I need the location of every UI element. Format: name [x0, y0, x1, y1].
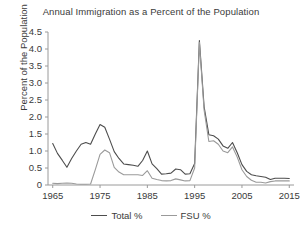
y-tick-label: 0: [37, 179, 42, 190]
legend-line-swatch-total: [91, 215, 107, 216]
series-line-fsu: [53, 42, 290, 184]
legend-label-fsu: FSU %: [181, 210, 211, 221]
x-axis-tick-labels: 196519751985199520052015: [42, 190, 300, 201]
x-tick-label: 1985: [137, 190, 158, 201]
series-line-total: [53, 41, 290, 180]
y-axis-tick-labels: 00.51.01.52.02.53.03.54.04.5: [29, 26, 42, 190]
y-tick-label: 2.5: [29, 94, 42, 105]
legend-label-total: Total %: [111, 210, 142, 221]
x-tick-label: 1965: [42, 190, 63, 201]
y-tick-label: 4.5: [29, 26, 42, 37]
y-tick-label: 0.5: [29, 162, 42, 173]
x-tick-label: 1995: [184, 190, 205, 201]
x-tick-label: 1975: [89, 190, 110, 201]
chart-figure: Annual Immigration as a Percent of the P…: [0, 0, 302, 232]
plot-area: 00.51.01.52.02.53.03.54.04.5 19651975198…: [0, 0, 302, 232]
y-tick-label: 2.0: [29, 111, 42, 122]
chart-legend: Total % FSU %: [0, 210, 302, 221]
y-tick-label: 1.0: [29, 145, 42, 156]
y-tick-label: 3.5: [29, 60, 42, 71]
data-series-group: [53, 41, 290, 185]
x-tick-label: 2015: [279, 190, 300, 201]
legend-entry-fsu[interactable]: FSU %: [161, 210, 211, 221]
legend-entry-total[interactable]: Total %: [91, 210, 142, 221]
y-tick-label: 1.5: [29, 128, 42, 139]
y-tick-label: 3.0: [29, 77, 42, 88]
x-tick-label: 2005: [231, 190, 252, 201]
legend-line-swatch-fsu: [161, 215, 177, 216]
y-tick-label: 4.0: [29, 43, 42, 54]
